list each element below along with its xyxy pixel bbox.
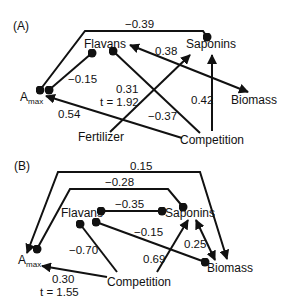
node-saponins: Saponins	[186, 37, 236, 51]
t-competition-amax: t = 1.55	[40, 286, 79, 298]
coef-flavans-biomass: −0.15	[134, 226, 163, 238]
edge-amax-saponins	[37, 189, 183, 249]
coef-amax-saponins: −0.39	[125, 18, 154, 30]
node-flavans: Flavans	[84, 37, 126, 51]
coef-flavans-saponins: −0.35	[115, 198, 144, 210]
coef-fertilizer-saponins: 0.31	[116, 83, 138, 95]
node-amax: Amax	[18, 253, 41, 269]
node-biomass: Biomass	[231, 93, 277, 107]
node-fertilizer: Fertilizer	[78, 130, 124, 144]
coef-competition-flavans: −0.37	[148, 110, 177, 122]
node-biomass: Biomass	[207, 261, 253, 275]
panel-a-label: (A)	[13, 19, 29, 33]
coef-competition-amax: 0.54	[58, 108, 81, 120]
node-competition: Competition	[107, 275, 171, 289]
coef-biomass-amax: 0.15	[130, 160, 152, 172]
coef-saponins-biomass: 0.25	[184, 238, 206, 250]
panel-a: (A) Flavans Saponins Biomass Fertilizer …	[13, 18, 277, 147]
node-amax: Amax	[20, 90, 43, 106]
node-flavans: Flavans	[61, 206, 103, 220]
coef-amax-flavans: −0.15	[68, 73, 97, 85]
t-fertilizer-saponins: t = 1.92	[100, 96, 139, 108]
panel-b: (B) Flavans Saponins Biomass Competition…	[14, 159, 253, 298]
coef-amax-saponins: −0.28	[105, 176, 134, 188]
node-competition: Competition	[180, 133, 244, 147]
coef-competition-flavans: −0.70	[69, 244, 98, 256]
coef-competition-amax: 0.30	[52, 273, 74, 285]
coef-competition-saponins: 0.42	[191, 94, 213, 106]
panel-b-label: (B)	[14, 159, 30, 173]
node-saponins: Saponins	[165, 206, 215, 220]
path-diagram: (A) Flavans Saponins Biomass Fertilizer …	[0, 0, 283, 305]
coef-competition-saponins: 0.69	[143, 253, 165, 265]
coef-biomass-flavans: 0.38	[155, 45, 177, 57]
